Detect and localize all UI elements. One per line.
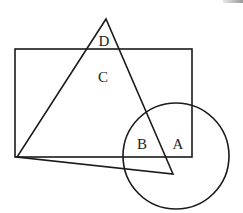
venn-diagram: D C B A <box>0 0 243 213</box>
circle-shape <box>123 103 229 209</box>
region-label-d: D <box>99 33 110 49</box>
region-label-c: C <box>98 69 108 85</box>
scan-artifact <box>223 0 243 3</box>
rectangle-shape <box>15 49 192 157</box>
region-label-b: B <box>137 136 147 152</box>
triangle-shape <box>17 19 173 174</box>
region-label-a: A <box>173 136 184 152</box>
